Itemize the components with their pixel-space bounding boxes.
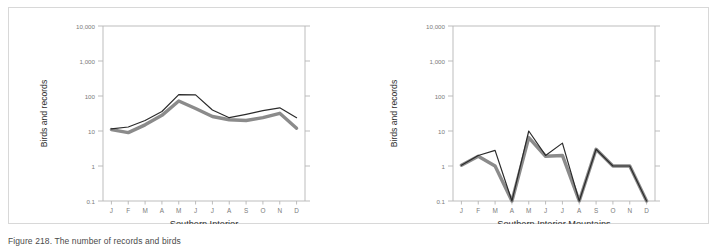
x-tick-label: A <box>577 207 582 214</box>
y-tick-label: 10 <box>88 128 95 135</box>
chart-panel-southern-interior-mountains: 0.11101001,00010,000JFMAMJJASONDBirds an… <box>359 8 709 224</box>
y-tick-label: 1,000 <box>430 58 446 65</box>
x-tick-label: S <box>244 207 248 214</box>
series-line-records <box>461 131 646 201</box>
y-tick-label: 1,000 <box>80 58 96 65</box>
y-tick-label: 10,000 <box>76 23 95 30</box>
x-tick-label: D <box>644 207 649 214</box>
x-tick-label: O <box>610 207 615 214</box>
line-chart-southern-interior: 0.11101001,00010,000JFMAMJJASONDBirds an… <box>9 8 359 224</box>
x-tick-label: M <box>142 207 147 214</box>
y-tick-label: 10,000 <box>426 23 445 30</box>
y-tick-label: 10 <box>438 128 445 135</box>
y-tick-label: 1 <box>442 163 446 170</box>
line-chart-southern-interior-mountains: 0.11101001,00010,000JFMAMJJASONDBirds an… <box>359 8 709 224</box>
x-tick-label: S <box>594 207 598 214</box>
y-axis-title: Birds and records <box>39 80 49 147</box>
x-tick-label: A <box>227 207 232 214</box>
x-tick-label: J <box>211 207 214 214</box>
y-tick-label: 0.1 <box>436 198 445 205</box>
x-tick-label: M <box>176 207 181 214</box>
x-tick-label: M <box>526 207 531 214</box>
y-tick-label: 100 <box>85 93 96 100</box>
x-tick-label: A <box>160 207 165 214</box>
x-tick-label: J <box>544 207 547 214</box>
x-tick-label: D <box>294 207 299 214</box>
x-axis-title: Southern Interior <box>170 219 238 224</box>
x-tick-label: J <box>561 207 564 214</box>
x-axis-title: Southern Interior Mountains <box>497 219 611 224</box>
y-tick-label: 100 <box>435 93 446 100</box>
x-tick-label: J <box>194 207 197 214</box>
series-line-birds <box>111 101 296 133</box>
y-tick-label: 0.1 <box>86 198 95 205</box>
x-tick-label: M <box>492 207 497 214</box>
x-tick-label: J <box>110 207 113 214</box>
y-axis-title: Birds and records <box>389 80 399 147</box>
y-tick-label: 1 <box>92 163 96 170</box>
x-tick-label: J <box>460 207 463 214</box>
series-line-birds <box>461 138 646 201</box>
x-tick-label: F <box>126 207 130 214</box>
x-tick-label: F <box>476 207 480 214</box>
x-tick-label: N <box>277 207 282 214</box>
x-tick-label: A <box>510 207 515 214</box>
x-tick-label: N <box>627 207 632 214</box>
chart-panel-southern-interior: 0.11101001,00010,000JFMAMJJASONDBirds an… <box>9 8 359 224</box>
figure-caption-text: Figure 218. The number of records and bi… <box>8 236 709 247</box>
x-tick-label: O <box>260 207 265 214</box>
figure-caption: Figure 218. The number of records and bi… <box>8 236 709 248</box>
figure-frame: 0.11101001,00010,000JFMAMJJASONDBirds an… <box>8 7 709 224</box>
